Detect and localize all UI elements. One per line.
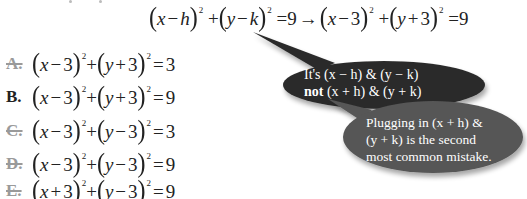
callout-shapes: [0, 0, 527, 199]
callout-text-1: It's (x − h) & (y − k) not (x + h) & (y …: [304, 66, 421, 100]
callout-text-2: Plugging in (x + h) & (y + k) is the sec…: [366, 114, 492, 165]
